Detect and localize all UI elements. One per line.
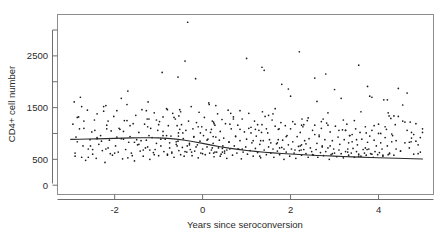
data-point	[202, 153, 204, 155]
data-point	[277, 150, 279, 152]
data-point	[87, 156, 89, 158]
data-point	[304, 140, 306, 142]
data-point	[301, 124, 303, 126]
data-point	[170, 135, 172, 137]
data-point	[300, 149, 302, 151]
data-point	[85, 160, 87, 162]
data-point	[273, 156, 275, 158]
data-point	[219, 131, 221, 133]
data-point	[149, 158, 151, 160]
data-point	[204, 154, 206, 156]
data-point	[213, 121, 215, 123]
data-point	[250, 132, 252, 134]
data-point	[386, 128, 388, 130]
data-point	[140, 140, 142, 142]
data-point	[173, 156, 175, 158]
data-point	[268, 146, 270, 148]
data-point	[150, 127, 152, 129]
data-point	[185, 130, 187, 132]
data-point	[384, 126, 386, 128]
data-point	[322, 118, 324, 120]
data-point	[215, 105, 217, 107]
data-point	[211, 120, 213, 122]
data-point	[177, 140, 179, 142]
data-point	[175, 118, 177, 120]
data-point	[306, 120, 308, 122]
data-point	[255, 148, 257, 150]
data-point	[408, 141, 410, 143]
data-point	[351, 134, 353, 136]
data-point	[252, 155, 254, 157]
data-point	[252, 140, 254, 142]
x-tick-label: -2	[110, 204, 118, 215]
data-point	[248, 127, 250, 129]
data-point	[227, 109, 229, 111]
data-point	[178, 150, 180, 152]
data-point	[117, 151, 119, 153]
data-point	[345, 130, 347, 132]
data-point	[233, 145, 235, 147]
data-point	[294, 149, 296, 151]
data-point	[345, 151, 347, 153]
data-point	[410, 141, 412, 143]
data-point	[387, 112, 389, 114]
data-point	[417, 144, 419, 146]
data-point	[395, 140, 397, 142]
data-point	[259, 143, 261, 145]
data-point	[233, 116, 235, 118]
data-point	[284, 125, 286, 127]
data-point	[415, 123, 417, 125]
data-point	[163, 151, 165, 153]
data-point	[351, 141, 353, 143]
cd4-scatter-figure: 050015002500 CD4+ cell number -2024 Year…	[0, 0, 445, 241]
data-point	[87, 148, 89, 150]
data-point	[283, 148, 285, 150]
data-point	[132, 123, 134, 125]
data-point	[301, 144, 303, 146]
data-point	[127, 157, 129, 159]
data-point	[159, 121, 161, 123]
data-point	[145, 139, 147, 141]
data-point	[180, 111, 182, 113]
data-point	[290, 95, 292, 97]
data-point	[154, 149, 156, 151]
data-point	[175, 141, 177, 143]
data-point	[195, 78, 197, 80]
data-point	[200, 132, 202, 134]
data-point	[183, 155, 185, 157]
data-point	[291, 148, 293, 150]
data-point	[254, 120, 256, 122]
data-point	[419, 137, 421, 139]
data-point	[81, 156, 83, 158]
data-point	[191, 155, 193, 157]
data-point	[270, 142, 272, 144]
data-point	[340, 97, 342, 99]
data-point	[216, 151, 218, 153]
data-point	[105, 148, 107, 150]
data-point	[139, 150, 141, 152]
data-point	[222, 145, 224, 147]
data-point	[129, 125, 131, 127]
data-point	[359, 132, 361, 134]
data-point	[181, 124, 183, 126]
data-point	[208, 104, 210, 106]
data-point	[386, 145, 388, 147]
data-point	[180, 154, 182, 156]
data-point	[413, 134, 415, 136]
data-point	[357, 144, 359, 146]
data-point	[142, 155, 144, 157]
data-point	[107, 147, 109, 149]
data-point	[186, 151, 188, 153]
data-point	[235, 135, 237, 137]
data-point	[246, 58, 248, 60]
data-point	[217, 113, 219, 115]
data-point	[123, 120, 125, 122]
data-point	[83, 120, 85, 122]
x-tick-label: 2	[288, 204, 293, 215]
data-point	[324, 139, 326, 141]
data-point	[302, 126, 304, 128]
data-point	[365, 154, 367, 156]
data-point	[213, 123, 215, 125]
data-point	[373, 125, 375, 127]
data-point	[333, 148, 335, 150]
